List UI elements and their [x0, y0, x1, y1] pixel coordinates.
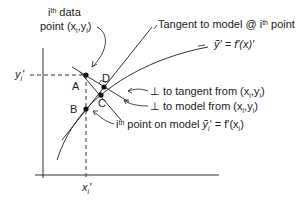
perp-tangent-leader-arrow — [128, 89, 148, 91]
point-C-label: C — [98, 97, 106, 109]
tangent-label: Tangent to model @ ith point — [158, 18, 295, 30]
x-axis-tick-label: xi' — [82, 181, 91, 198]
curve-label-leader — [198, 45, 205, 46]
y-axis-tick-label: yi' — [15, 68, 24, 85]
perp-model-label: ⊥ to model from (xi,yi) — [150, 100, 258, 117]
data-point-label-line1: ith data — [48, 6, 81, 18]
point-B — [83, 106, 88, 111]
point-D-label: D — [102, 72, 110, 84]
data-point-label-line2: point (xi,yi) — [40, 20, 91, 37]
data-point-leader-arrow — [92, 27, 105, 67]
point-A — [83, 72, 88, 77]
tangent-equation: ỹ' = f'(x)' — [214, 38, 254, 50]
point-D — [101, 84, 106, 89]
point-A-label: A — [72, 80, 79, 92]
model-point-leader-arrow — [93, 111, 114, 124]
tangent-leader-line — [154, 25, 157, 29]
point-B-label: B — [70, 103, 77, 115]
model-point-label: ith point on model ỹi' = f'(xi) — [116, 118, 244, 135]
